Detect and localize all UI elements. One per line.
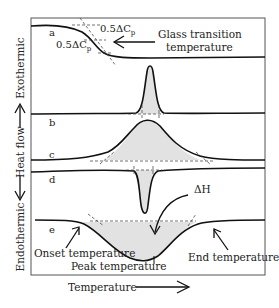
curve-d: d <box>31 166 265 213</box>
x-axis: Temperature <box>68 281 189 293</box>
cp-upper-label: 0.5ΔCp <box>100 23 136 37</box>
y-label-heat-flow: Heat flow <box>14 126 26 178</box>
glass-transition-label-1: Glass transition <box>158 28 242 40</box>
y-label-exothermic: Exothermic <box>14 37 26 98</box>
glass-transition-label-2: temperature <box>166 41 233 53</box>
delta-h-label: ΔH <box>194 183 211 195</box>
end-temperature-label: End temperature <box>188 251 279 263</box>
curve-label-b: b <box>49 117 55 128</box>
y-label-endothermic: Endothermic <box>14 202 26 271</box>
curve-label-d: d <box>49 174 56 185</box>
curve-a: a 0.5ΔCp 0.5ΔCp Glass transition tempera… <box>31 18 265 66</box>
dsc-diagram: a 0.5ΔCp 0.5ΔCp Glass transition tempera… <box>0 0 279 308</box>
cp-lower-label: 0.5ΔCp <box>56 39 92 53</box>
onset-temperature-label: Onset temperature <box>34 247 135 259</box>
x-label-temperature: Temperature <box>68 281 137 293</box>
curve-label-a: a <box>49 27 55 38</box>
dsc-figure: a 0.5ΔCp 0.5ΔCp Glass transition tempera… <box>0 0 279 308</box>
peak-temperature-label: Peak temperature <box>71 260 167 272</box>
y-axis: Exothermic Heat flow Endothermic <box>14 37 26 271</box>
curve-b: b <box>31 66 265 128</box>
curve-label-c: c <box>49 149 55 160</box>
curve-c: c <box>31 120 265 164</box>
curve-label-e: e <box>49 224 55 235</box>
